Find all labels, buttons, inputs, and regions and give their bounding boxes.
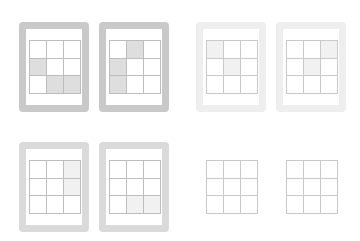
grid-cell [224, 76, 241, 94]
grid-cell [304, 196, 321, 214]
grid-cell [110, 179, 127, 197]
grid-cell [47, 59, 64, 77]
grid-cell [287, 196, 304, 214]
grid-cell [110, 41, 127, 59]
grid-cell [241, 41, 258, 59]
grid-cell [127, 179, 144, 197]
grid-cell [321, 161, 338, 179]
grid-cell [224, 161, 241, 179]
tile-grid [286, 160, 338, 214]
grid-cell [224, 41, 241, 59]
grid-cell [224, 179, 241, 197]
tile-grid [109, 40, 161, 94]
grid-cell [241, 179, 258, 197]
grid-cell-filled [304, 59, 321, 77]
grid-cell-filled [64, 76, 81, 94]
grid-cell-filled [127, 196, 144, 214]
tile-grid [29, 40, 81, 94]
grid-cell-filled [30, 59, 47, 77]
tile-grid [109, 160, 161, 214]
grid-cell-filled [207, 41, 224, 59]
grid-cell-filled [47, 76, 64, 94]
grid-cell [287, 41, 304, 59]
grid-cell-filled [127, 41, 144, 59]
grid-cell [144, 161, 161, 179]
grid-cell [144, 59, 161, 77]
grid-cell [304, 179, 321, 197]
tile-grid [206, 160, 258, 214]
pattern-tile-6[interactable] [99, 142, 169, 232]
grid-cell [30, 76, 47, 94]
grid-cell [47, 196, 64, 214]
grid-cell [207, 76, 224, 94]
grid-cell [207, 59, 224, 77]
grid-cell-filled [110, 76, 127, 94]
pattern-tile-5[interactable] [19, 142, 89, 232]
grid-cell [127, 161, 144, 179]
grid-cell [144, 41, 161, 59]
grid-cell [241, 196, 258, 214]
grid-cell [207, 179, 224, 197]
grid-cell [110, 161, 127, 179]
grid-cell [144, 76, 161, 94]
grid-cell [304, 161, 321, 179]
pattern-tile-1[interactable] [19, 22, 89, 112]
grid-cell [47, 161, 64, 179]
grid-cell [241, 59, 258, 77]
tile-grid [286, 40, 338, 94]
grid-cell [30, 161, 47, 179]
pattern-tile-7[interactable] [196, 142, 266, 232]
grid-cell [224, 196, 241, 214]
grid-cell [287, 76, 304, 94]
grid-cell-filled [110, 59, 127, 77]
grid-cell [127, 59, 144, 77]
pattern-tile-4[interactable] [276, 22, 346, 112]
tile-grid [206, 40, 258, 94]
grid-cell [47, 179, 64, 197]
grid-cell-filled [64, 179, 81, 197]
grid-cell [321, 179, 338, 197]
tile-grid [29, 160, 81, 214]
grid-cell [241, 76, 258, 94]
grid-cell [321, 76, 338, 94]
grid-cell [287, 59, 304, 77]
grid-cell [30, 41, 47, 59]
grid-cell [287, 179, 304, 197]
grid-cell [304, 76, 321, 94]
pattern-tile-2[interactable] [99, 22, 169, 112]
grid-cell [47, 41, 64, 59]
grid-cell [321, 196, 338, 214]
pattern-tile-3[interactable] [196, 22, 266, 112]
grid-cell [207, 161, 224, 179]
grid-cell [64, 41, 81, 59]
grid-cell-filled [64, 161, 81, 179]
grid-cell-filled [321, 41, 338, 59]
grid-cell [64, 59, 81, 77]
grid-cell [64, 196, 81, 214]
grid-cell [110, 196, 127, 214]
grid-cell [241, 161, 258, 179]
pattern-tile-8[interactable] [276, 142, 346, 232]
grid-cell-filled [144, 196, 161, 214]
grid-cell [287, 161, 304, 179]
grid-cell [30, 196, 47, 214]
grid-cell [144, 179, 161, 197]
grid-cell [207, 196, 224, 214]
grid-cell [30, 179, 47, 197]
grid-cell [321, 59, 338, 77]
grid-cell-filled [224, 59, 241, 77]
grid-cell [127, 76, 144, 94]
grid-cell [304, 41, 321, 59]
